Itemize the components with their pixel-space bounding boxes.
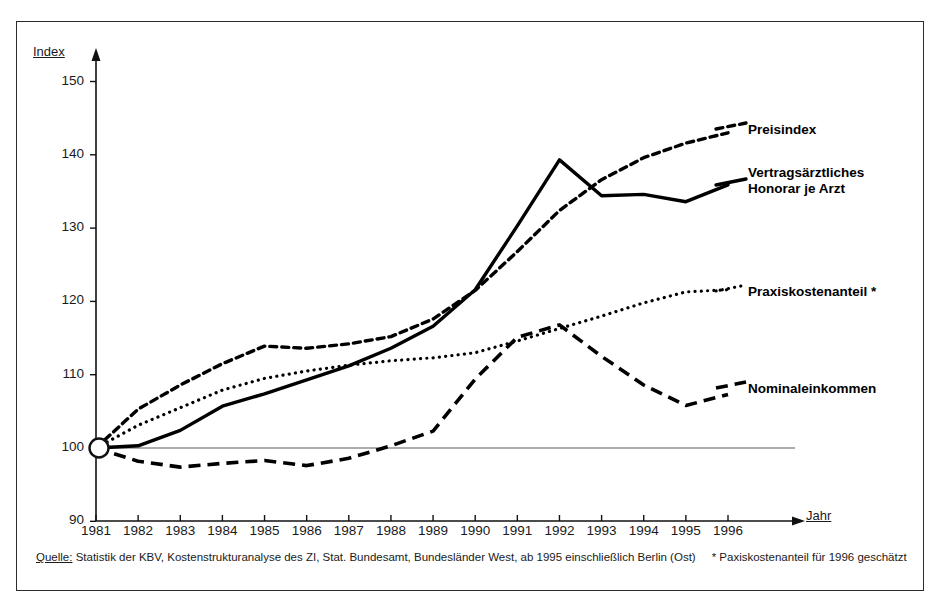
x-axis-arrow <box>792 517 805 526</box>
y-tick-130: 130 <box>46 219 84 234</box>
chart-plot-area <box>0 0 941 614</box>
legend-swatch-dash-dot <box>716 123 746 129</box>
x-tick-1989: 1989 <box>410 523 456 538</box>
x-tick-1982: 1982 <box>115 523 161 538</box>
y-tick-120: 120 <box>46 292 84 307</box>
series-label-honorar: Vertragsärztliches Honorar je Arzt <box>748 165 864 198</box>
y-tick-110: 110 <box>46 366 84 381</box>
y-axis-arrow <box>92 48 101 61</box>
x-tick-1986: 1986 <box>284 523 330 538</box>
series-label-nominaleinkommen: Nominaleinkommen <box>748 381 876 397</box>
x-tick-1981: 1981 <box>73 523 119 538</box>
y-tick-140: 140 <box>46 146 84 161</box>
legend-swatches <box>716 123 746 388</box>
x-tick-1996: 1996 <box>705 523 751 538</box>
axis-lines <box>92 48 806 526</box>
series-label-preisindex: Preisindex <box>748 122 816 138</box>
x-tick-1993: 1993 <box>579 523 625 538</box>
x-tick-1984: 1984 <box>199 523 245 538</box>
series-line-dashed <box>96 325 728 467</box>
x-tick-1994: 1994 <box>621 523 667 538</box>
legend-swatch-dashed <box>716 382 746 388</box>
series-line-solid <box>96 160 728 448</box>
x-axis-title: Jahr <box>806 508 831 523</box>
series-label-praxiskostenanteil: Praxiskostenanteil * <box>748 284 876 300</box>
x-tick-1991: 1991 <box>494 523 540 538</box>
legend-swatch-solid <box>716 179 746 185</box>
x-tick-1995: 1995 <box>663 523 709 538</box>
x-tick-1988: 1988 <box>368 523 414 538</box>
x-tick-1987: 1987 <box>326 523 372 538</box>
y-tick-100: 100 <box>46 439 84 454</box>
source-footnote: * Paxiskostenanteil für 1996 geschätzt <box>696 551 907 563</box>
series-paths <box>96 133 728 467</box>
y-axis-title: Index <box>33 44 65 59</box>
series-line-dash-dot <box>96 133 728 448</box>
x-tick-1985: 1985 <box>242 523 288 538</box>
y-tick-150: 150 <box>46 73 84 88</box>
x-tick-1992: 1992 <box>536 523 582 538</box>
x-tick-1990: 1990 <box>452 523 498 538</box>
origin-marker <box>90 439 109 458</box>
figure-root: Index Jahr 15014013012011010090 19811982… <box>0 0 941 614</box>
source-text: Statistik der KBV, Kostenstrukturanalyse… <box>72 551 695 563</box>
source-prefix: Quelle: <box>36 551 72 563</box>
source-note: Quelle: Statistik der KBV, Kostenstruktu… <box>36 551 907 563</box>
x-tick-1983: 1983 <box>157 523 203 538</box>
x-axis-ticks <box>96 515 728 521</box>
